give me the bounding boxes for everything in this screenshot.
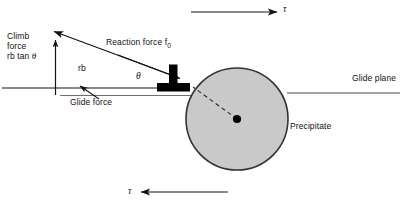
reaction-force-subscript: 0 bbox=[167, 42, 171, 49]
tau-top-label: τ bbox=[283, 4, 287, 15]
glide-plane-label: Glide plane bbox=[352, 73, 396, 83]
rb-label: rb bbox=[78, 63, 86, 73]
climb-force-label: Climb force rb tan θ bbox=[7, 31, 36, 62]
climb-force-label-line1: Climb bbox=[7, 31, 29, 41]
climb-force-theta-symbol: θ bbox=[32, 51, 37, 61]
dislocation-symbol-stem bbox=[169, 65, 178, 85]
dislocation-symbol-bar bbox=[157, 83, 190, 92]
reaction-force-label-text: Reaction force f bbox=[106, 37, 167, 47]
glide-force-label: Glide force bbox=[70, 97, 112, 107]
precipitate-center-dot bbox=[233, 115, 241, 123]
climb-force-label-line3: rb tan bbox=[7, 51, 32, 61]
dislocation-symbol bbox=[157, 65, 190, 92]
figure-container: Climb force rb tan θ Reaction force f0 r… bbox=[0, 0, 406, 209]
tau-bottom-label: τ bbox=[128, 186, 132, 197]
diagram-canvas bbox=[0, 0, 406, 209]
climb-force-label-line2: force bbox=[7, 41, 26, 51]
precipitate-label: Precipitate bbox=[290, 121, 331, 131]
reaction-force-label: Reaction force f0 bbox=[106, 37, 171, 49]
theta-angle-label: θ bbox=[136, 71, 141, 82]
